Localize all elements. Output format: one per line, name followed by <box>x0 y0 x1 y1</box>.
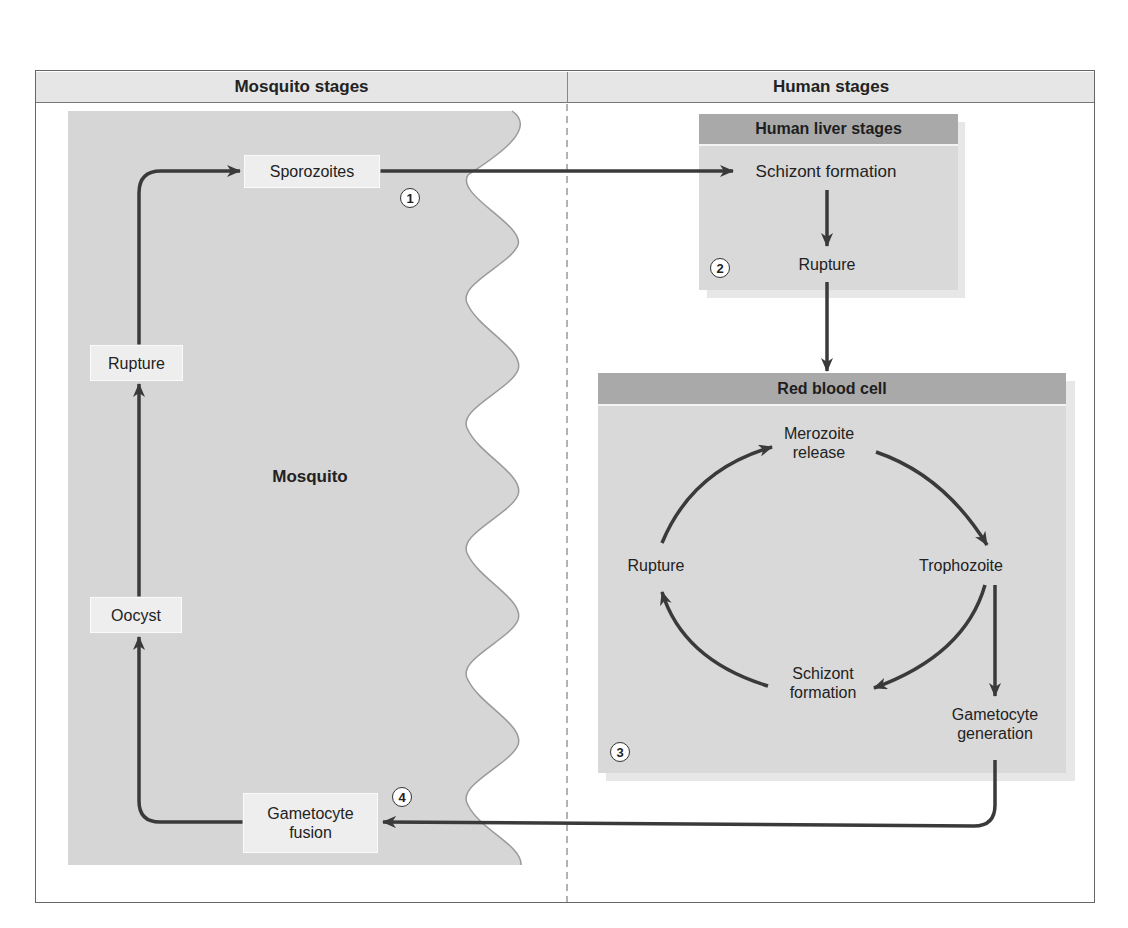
stage-gametocyte-fusion-line2: fusion <box>289 823 332 842</box>
rbc-gametocyte-generation: Gametocyte generation <box>935 705 1055 743</box>
rbc-gametocyte-line2: generation <box>935 724 1055 743</box>
arrow-rupture-to-merozoite <box>662 447 772 543</box>
arrow-rupture-to-sporozoites <box>139 171 240 345</box>
stage-oocyst-label: Oocyst <box>111 606 161 625</box>
step-badge-3: 3 <box>610 742 630 762</box>
stage-mosquito-rupture: Rupture <box>90 345 183 381</box>
rbc-schizont-line1: Schizont <box>768 664 878 683</box>
arrows-layer <box>0 0 1128 928</box>
stage-sporozoites-label: Sporozoites <box>270 162 355 181</box>
stage-mosquito-rupture-label: Rupture <box>108 354 165 373</box>
liver-rupture: Rupture <box>777 255 877 274</box>
rbc-gametocyte-line1: Gametocyte <box>935 705 1055 724</box>
step-badge-4: 4 <box>392 787 412 807</box>
rbc-schizont-formation: Schizont formation <box>768 664 878 702</box>
rbc-merozoite-line2: release <box>759 443 879 462</box>
rbc-trophozoite: Trophozoite <box>906 556 1016 575</box>
arrow-fusion-to-oocyst <box>139 637 243 822</box>
rbc-schizont-line2: formation <box>768 683 878 702</box>
stage-gametocyte-fusion: Gametocyte fusion <box>243 793 378 853</box>
rbc-merozoite-release: Merozoite release <box>759 424 879 462</box>
arrow-schizont-to-rupture <box>662 592 768 686</box>
rbc-rupture: Rupture <box>606 556 706 575</box>
stage-sporozoites: Sporozoites <box>244 155 380 188</box>
stage-oocyst: Oocyst <box>90 597 182 633</box>
mosquito-region-label: Mosquito <box>240 467 380 486</box>
rbc-merozoite-line1: Merozoite <box>759 424 879 443</box>
arrow-gametocyte-to-fusion <box>383 760 995 826</box>
stage-gametocyte-fusion-line1: Gametocyte <box>267 804 353 823</box>
liver-schizont-formation: Schizont formation <box>736 162 916 181</box>
step-badge-1: 1 <box>400 188 420 208</box>
arrow-merozoite-to-trophozoite <box>876 452 987 545</box>
arrow-trophozoite-to-schizont <box>874 585 985 688</box>
step-badge-2: 2 <box>710 258 730 278</box>
